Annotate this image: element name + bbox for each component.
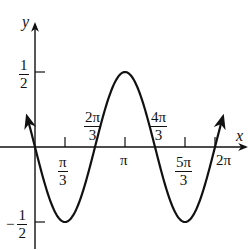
- x-axis-label: x: [236, 128, 243, 144]
- denominator: 3: [180, 172, 188, 188]
- denominator: 2: [18, 225, 26, 241]
- x-tick-label-pi: π: [120, 153, 128, 168]
- numerator: π: [58, 155, 68, 172]
- denominator: 3: [59, 172, 67, 188]
- sine-graph: [0, 0, 248, 250]
- numerator: 4π: [150, 110, 167, 127]
- denominator: 3: [89, 127, 97, 143]
- numerator: 1: [17, 208, 27, 225]
- x-tick-label-2pi: 2π: [216, 153, 231, 168]
- denominator: 3: [155, 127, 163, 143]
- x-tick-label-5pi-3: 5π 3: [175, 155, 192, 188]
- minus-sign: −: [6, 217, 14, 232]
- x-tick-label-4pi-3: 4π 3: [150, 110, 167, 143]
- y-tick-label-half: 1 2: [19, 58, 29, 91]
- x-tick-label-2pi-3: 2π 3: [84, 110, 101, 143]
- y-tick-label-neg-half: − 1 2: [6, 208, 27, 241]
- denominator: 2: [20, 75, 28, 91]
- numerator: 5π: [175, 155, 192, 172]
- y-axis-label: y: [22, 14, 29, 30]
- x-tick-label-pi-3: π 3: [58, 155, 68, 188]
- numerator: 1: [19, 58, 29, 75]
- numerator: 2π: [84, 110, 101, 127]
